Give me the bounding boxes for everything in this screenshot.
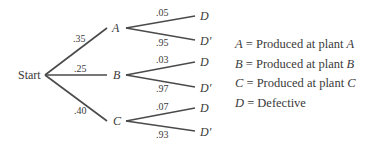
legend-text: = Produced at plant	[243, 37, 347, 51]
legend-ref: A	[347, 37, 355, 51]
prob-a-d: .05	[156, 8, 169, 18]
prob-a: .35	[73, 34, 86, 44]
node-b: B	[113, 69, 120, 81]
legend-text: = Defective	[244, 96, 306, 110]
prob-c-dprime: .93	[156, 130, 169, 140]
legend-symbol: D	[235, 96, 244, 110]
prob-a-dprime: .95	[156, 38, 169, 48]
leaf-c-d: D	[200, 102, 209, 114]
prob-b: .25	[74, 64, 87, 74]
legend-text: = Produced at plant	[243, 76, 347, 90]
legend: A = Produced at plant A B = Produced at …	[235, 35, 356, 113]
leaf-a-d: D	[200, 10, 209, 22]
prob-c-d: .07	[156, 102, 169, 112]
leaf-c-dprime: D′	[200, 126, 211, 138]
legend-symbol: A	[235, 37, 243, 51]
legend-ref: C	[347, 76, 355, 90]
legend-row-d: D = Defective	[235, 94, 356, 114]
leaf-a-dprime: D′	[200, 35, 211, 47]
legend-row-a: A = Produced at plant A	[235, 35, 356, 55]
node-c: C	[113, 115, 121, 127]
legend-row-c: C = Produced at plant C	[235, 74, 356, 94]
legend-text: = Produced at plant	[243, 57, 347, 71]
node-a: A	[112, 22, 119, 34]
prob-b-d: .03	[156, 55, 169, 65]
legend-ref: B	[347, 57, 355, 71]
legend-symbol: B	[235, 57, 243, 71]
prob-b-dprime: .97	[156, 84, 169, 94]
leaf-b-d: D	[200, 56, 209, 68]
leaf-b-dprime: D′	[200, 82, 211, 94]
start-node: Start	[18, 69, 41, 81]
legend-row-b: B = Produced at plant B	[235, 55, 356, 75]
prob-c: .40	[74, 106, 87, 116]
